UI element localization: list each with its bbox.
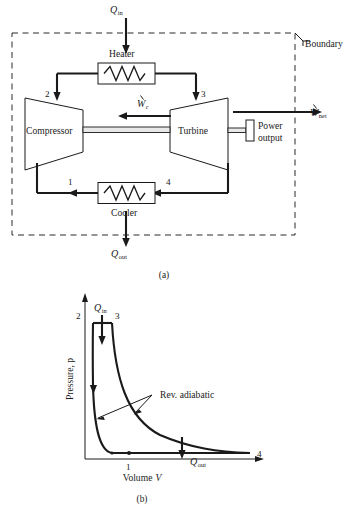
w-c-label: Wc (137, 98, 149, 110)
cooler-label: Cooler (111, 207, 138, 218)
rev-adiabatic-leader-right (135, 395, 152, 413)
rev-adiabatic-annotation: Rev. adiabatic (160, 389, 214, 400)
panel-b-pv-diagram: Qin Qout 2 3 1 4 Rev. adiabatic Pressure… (0, 285, 346, 510)
boundary-label: Boundary (305, 38, 343, 49)
q-in-arrowhead-b (98, 336, 105, 345)
arrowhead-state-2 (53, 92, 60, 101)
state-point-2-b: 2 (76, 311, 81, 321)
panel-b-caption: (b) (137, 494, 148, 505)
state-point-3: 3 (201, 89, 206, 99)
panel-a-schematic: Qin Heater Cooler Compressor Turbine Pow… (0, 0, 346, 285)
w-net-label: Wnet (310, 107, 327, 119)
state-point-1: 1 (68, 177, 73, 187)
x-axis-label: VolumeV (123, 472, 163, 483)
q-in-label-b: Qin (94, 302, 108, 314)
state-point-1-b: 1 (126, 462, 131, 472)
state-dot-1b (110, 451, 113, 454)
power-output-label-2: output (258, 132, 283, 143)
drive-shaft (83, 127, 170, 133)
y-axis-label: Pressure, p (64, 358, 75, 400)
heater-box (98, 63, 155, 84)
heater-label: Heater (109, 48, 135, 59)
compressor-label: Compressor (26, 125, 73, 136)
y-axis-arrowhead (82, 293, 88, 302)
q-in-label: Qin (110, 4, 124, 16)
output-shaft (228, 128, 246, 133)
panel-a-caption: (a) (159, 270, 169, 281)
arrowhead-state-3 (192, 92, 199, 101)
state-point-4-b: 4 (257, 449, 262, 459)
cycle-direction-arrowhead (90, 385, 97, 394)
w-c-arrowhead (118, 112, 127, 120)
state-point-3-b: 3 (115, 311, 120, 321)
power-output-label-1: Power (258, 120, 283, 131)
cooler-box (98, 183, 155, 204)
q-out-arrowhead-b (178, 450, 185, 459)
q-out-label-b: Qout (190, 456, 206, 468)
rev-adiabatic-leader-left (98, 395, 152, 418)
state-point-2: 2 (45, 89, 50, 99)
turbine-label: Turbine (178, 125, 208, 136)
state-dot-1 (127, 451, 131, 455)
process-3-4-adiabatic (112, 323, 250, 453)
q-out-arrowhead (122, 238, 130, 247)
q-out-label: Qout (111, 248, 127, 260)
power-output-box (246, 120, 254, 141)
boundary-leader (295, 33, 303, 46)
arrowhead-state-1 (68, 189, 77, 197)
state-point-4: 4 (166, 177, 171, 187)
figure-page: Qin Heater Cooler Compressor Turbine Pow… (0, 0, 346, 510)
